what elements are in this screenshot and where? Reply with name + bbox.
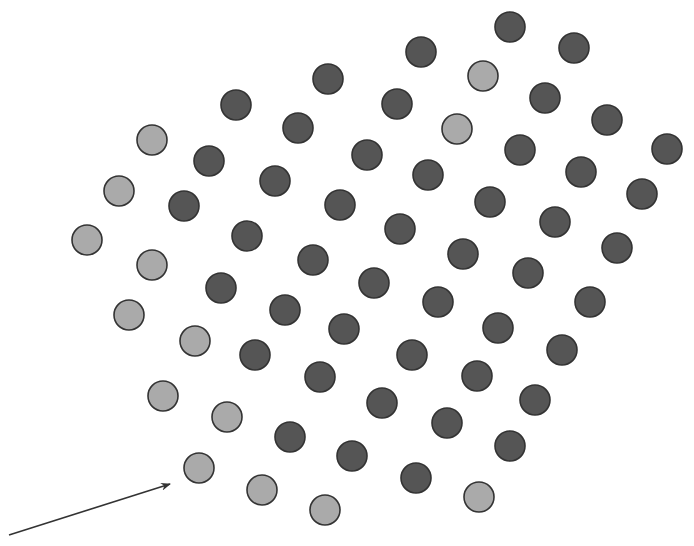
dark-dot bbox=[432, 408, 462, 438]
dark-dot bbox=[325, 190, 355, 220]
dark-dot bbox=[313, 64, 343, 94]
dark-dot bbox=[260, 166, 290, 196]
dark-dot bbox=[559, 33, 589, 63]
dark-dot bbox=[298, 245, 328, 275]
dark-dot bbox=[382, 89, 412, 119]
dark-dot bbox=[270, 295, 300, 325]
dark-dot bbox=[592, 105, 622, 135]
dark-dot bbox=[385, 214, 415, 244]
light-dot bbox=[442, 114, 472, 144]
dark-dot bbox=[547, 335, 577, 365]
light-dot bbox=[184, 453, 214, 483]
dark-dot bbox=[475, 187, 505, 217]
light-dot bbox=[310, 495, 340, 525]
light-dot bbox=[137, 125, 167, 155]
light-dot bbox=[468, 61, 498, 91]
dark-dot bbox=[169, 191, 199, 221]
light-dot bbox=[464, 482, 494, 512]
dark-dot bbox=[367, 388, 397, 418]
dark-dot bbox=[397, 340, 427, 370]
dark-dot bbox=[329, 314, 359, 344]
light-dot bbox=[180, 326, 210, 356]
dark-dot bbox=[423, 287, 453, 317]
light-dot bbox=[247, 475, 277, 505]
light-dot bbox=[72, 225, 102, 255]
dark-dot bbox=[530, 83, 560, 113]
dark-dot bbox=[602, 233, 632, 263]
dark-dot bbox=[483, 313, 513, 343]
dark-dot bbox=[401, 463, 431, 493]
light-dot bbox=[148, 381, 178, 411]
light-dot bbox=[104, 176, 134, 206]
dark-dot bbox=[194, 146, 224, 176]
dark-dot bbox=[206, 273, 236, 303]
dark-dot bbox=[337, 441, 367, 471]
dark-dot bbox=[505, 135, 535, 165]
pointer-arrow bbox=[9, 484, 170, 535]
dark-dot bbox=[462, 361, 492, 391]
dark-dot bbox=[221, 90, 251, 120]
light-dot bbox=[114, 300, 144, 330]
dark-dot bbox=[406, 37, 436, 67]
dot-lattice-diagram bbox=[0, 0, 694, 546]
dark-dot bbox=[495, 431, 525, 461]
dark-dot bbox=[566, 157, 596, 187]
dark-dot bbox=[352, 140, 382, 170]
dark-dot bbox=[240, 340, 270, 370]
dark-dot bbox=[575, 287, 605, 317]
dark-dot bbox=[520, 385, 550, 415]
dark-dot bbox=[495, 12, 525, 42]
dark-dot bbox=[652, 134, 682, 164]
dark-dot bbox=[448, 239, 478, 269]
dark-dot bbox=[413, 160, 443, 190]
dark-dot bbox=[232, 221, 262, 251]
light-dot bbox=[137, 250, 167, 280]
dark-dot bbox=[283, 113, 313, 143]
dark-dot bbox=[540, 207, 570, 237]
dark-dot bbox=[513, 258, 543, 288]
light-dot bbox=[212, 402, 242, 432]
dark-dot bbox=[359, 268, 389, 298]
dots-layer bbox=[72, 12, 682, 525]
dark-dot bbox=[275, 422, 305, 452]
dark-dot bbox=[627, 179, 657, 209]
dark-dot bbox=[305, 362, 335, 392]
